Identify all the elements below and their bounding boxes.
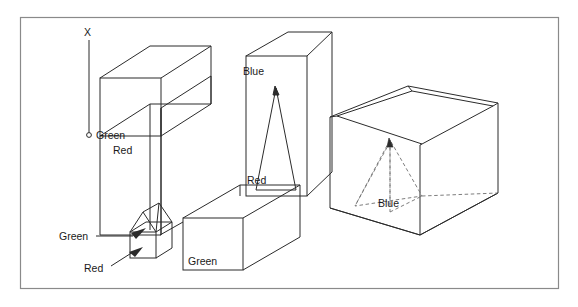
axis-label-x: X (84, 26, 91, 38)
diagram-canvas: X Green Red Green Red Blue Red Green Blu… (0, 0, 578, 307)
label-house-red: Red (84, 262, 103, 274)
label-tallbox-blue: Blue (243, 65, 264, 77)
axis-origin-marker (87, 133, 92, 138)
label-house-green: Green (59, 230, 88, 242)
label-bar-green: Green (188, 255, 217, 267)
label-box1-green: Green (96, 129, 125, 141)
label-slab-red: Red (113, 144, 132, 156)
label-pyramid-blue: Blue (378, 197, 399, 209)
label-cone-red: Red (247, 174, 266, 186)
figure-frame (21, 18, 559, 289)
diagram-svg: X Green Red Green Red Blue Red Green Blu… (0, 0, 578, 307)
